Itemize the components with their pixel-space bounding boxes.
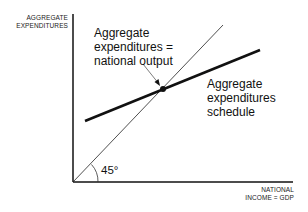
equilibrium-label: Aggregate expenditures = national output — [94, 26, 173, 68]
y-axis-label: AGGREGATE EXPENDITURES — [0, 14, 68, 30]
equilibrium-point — [160, 86, 166, 92]
arrow-head — [155, 79, 161, 86]
angle-label: 45° — [101, 163, 118, 177]
angle-arc — [92, 165, 99, 183]
schedule-label: Aggregate expenditures schedule — [207, 77, 276, 119]
diagram: AGGREGATE EXPENDITURES NATIONAL INCOME =… — [0, 0, 308, 212]
x-axis-label: NATIONAL INCOME = GDP — [220, 186, 294, 202]
